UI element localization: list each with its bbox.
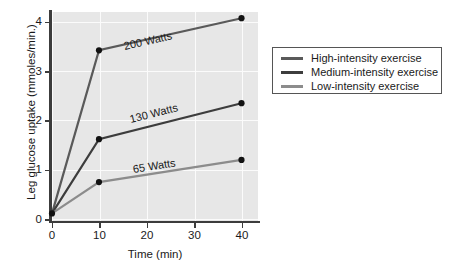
data-point-marker bbox=[96, 179, 102, 185]
data-point-marker bbox=[238, 157, 244, 163]
chart-figure: 4 3 2 1 0 0 10 20 30 40 Leg glucose upta… bbox=[0, 0, 449, 274]
data-point-marker bbox=[49, 210, 55, 216]
legend: High-intensity exercise Medium-intensity… bbox=[272, 47, 442, 94]
data-point-marker bbox=[96, 136, 102, 142]
legend-swatch-low-intensity bbox=[281, 85, 303, 87]
legend-item-medium-intensity[interactable]: Medium-intensity exercise bbox=[281, 66, 441, 79]
legend-label-medium-intensity: Medium-intensity exercise bbox=[311, 67, 438, 78]
series-layer bbox=[0, 0, 449, 274]
data-point-marker bbox=[96, 47, 102, 53]
legend-item-low-intensity[interactable]: Low-intensity exercise bbox=[281, 80, 441, 93]
data-point-marker bbox=[238, 100, 244, 106]
legend-swatch-medium-intensity bbox=[281, 71, 303, 74]
data-point-marker bbox=[238, 15, 244, 21]
legend-item-high-intensity[interactable]: High-intensity exercise bbox=[281, 52, 441, 65]
legend-swatch-high-intensity bbox=[281, 57, 303, 59]
legend-label-low-intensity: Low-intensity exercise bbox=[311, 81, 419, 92]
legend-label-high-intensity: High-intensity exercise bbox=[311, 53, 422, 64]
